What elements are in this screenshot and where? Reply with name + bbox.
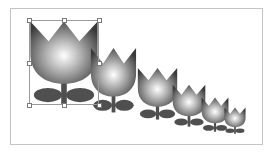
resize-handle-middle-left[interactable]	[27, 61, 32, 66]
left-leaf	[174, 118, 188, 125]
resize-handle-bottom-right[interactable]	[97, 103, 102, 108]
tulip-shape-6[interactable]	[224, 107, 246, 134]
resize-handle-bottom-left[interactable]	[27, 103, 32, 108]
right-leaf	[115, 100, 134, 111]
resize-handle-top-right[interactable]	[97, 18, 102, 23]
tulip-petals	[224, 107, 245, 127]
left-leaf	[226, 129, 235, 134]
resize-handle-middle-right[interactable]	[97, 61, 102, 66]
resize-handle-bottom-center[interactable]	[62, 103, 67, 108]
selection-bounding-box[interactable]	[29, 20, 99, 105]
left-leaf	[140, 109, 156, 118]
right-leaf	[236, 129, 245, 134]
resize-handle-top-left[interactable]	[27, 18, 32, 23]
left-leaf	[203, 125, 214, 131]
resize-handle-top-center[interactable]	[62, 18, 67, 23]
